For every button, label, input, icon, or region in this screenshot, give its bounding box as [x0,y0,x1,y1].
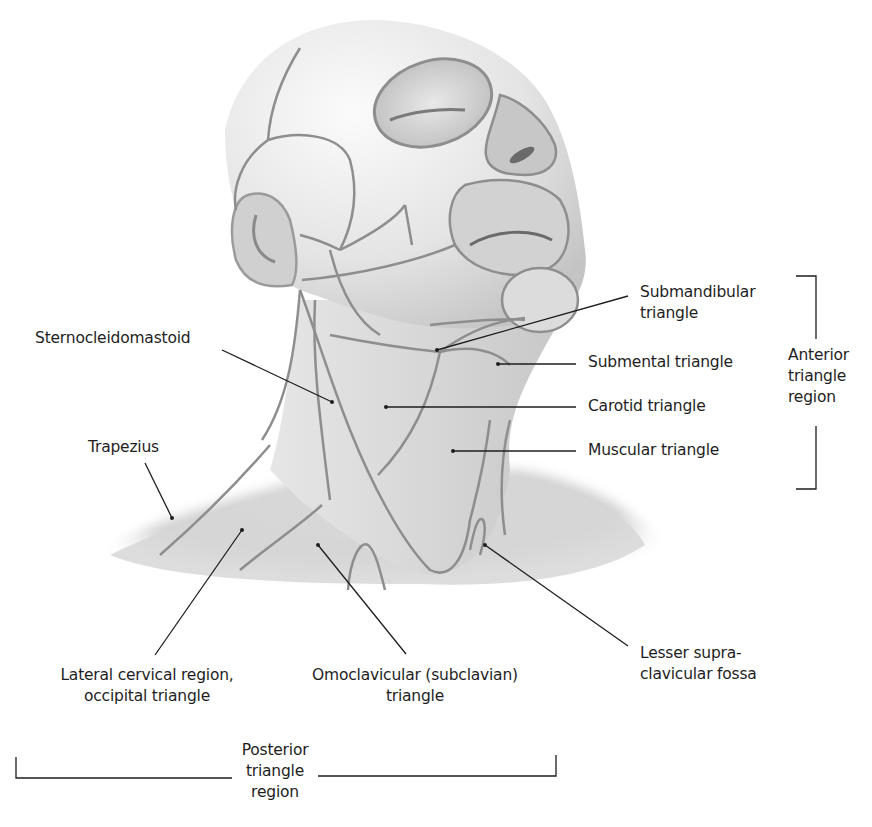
label-posterior-triangle-region: Posterior triangle region [230,740,320,803]
head [225,20,586,335]
label-sternocleidomastoid: Sternocleidomastoid [35,328,190,349]
label-trapezius: Trapezius [88,437,159,458]
leader-trapezius [145,463,172,518]
label-carotid-triangle: Carotid triangle [588,396,706,417]
chin [502,268,578,332]
label-submandibular-triangle: Submandibular triangle [640,282,755,324]
label-omoclavicular-triangle: Omoclavicular (subclavian) triangle [305,665,525,707]
label-anterior-triangle-region: Anterior triangle region [788,345,849,408]
mouth-region [450,180,569,275]
label-lesser-supraclavicular-fossa: Lesser supra- clavicular fossa [640,643,757,685]
label-submental-triangle: Submental triangle [588,352,733,373]
label-muscular-triangle: Muscular triangle [588,440,719,461]
label-lateral-cervical-region: Lateral cervical region, occipital trian… [42,665,252,707]
